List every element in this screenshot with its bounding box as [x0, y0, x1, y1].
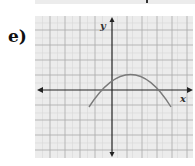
coordinate-graph: y x: [0, 0, 195, 166]
grid-background: [35, 16, 193, 158]
x-axis-label: x: [179, 93, 187, 104]
y-axis-label: y: [99, 20, 107, 31]
